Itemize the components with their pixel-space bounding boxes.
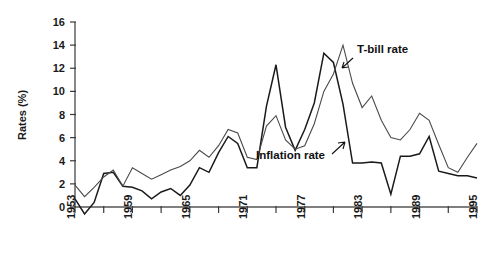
series-line-inflation-rate: [75, 53, 477, 214]
y-tick-label: 14: [53, 39, 66, 51]
y-axis: 0246810121416 Rates (%): [16, 16, 76, 213]
y-tick-label: 10: [53, 85, 65, 97]
x-tick-label: 1977: [295, 195, 307, 219]
x-tick-label: 1971: [237, 195, 249, 219]
annotation-t-bill: T-bill rate: [342, 43, 408, 68]
y-tick-label: 4: [59, 155, 66, 167]
x-axis: 19531959196519711977198319891995: [65, 195, 479, 219]
y-tick-label: 8: [59, 109, 65, 121]
annotation-inflation: Inflation rate: [256, 142, 345, 161]
annotation-label-t-bill-rate: T-bill rate: [357, 43, 408, 55]
y-tick-label: 12: [53, 62, 65, 74]
y-axis-title: Rates (%): [16, 90, 28, 140]
series-lines: [75, 45, 477, 214]
annotation-label-inflation-rate: Inflation rate: [256, 149, 325, 161]
annotation-arrow-inflation-rate: [332, 142, 345, 154]
x-tick-label: 1995: [467, 195, 479, 219]
y-tick-label: 6: [59, 132, 65, 144]
x-tick-label: 1959: [122, 195, 134, 219]
annotation-arrow-t-bill-rate: [342, 58, 353, 68]
x-tick-label: 1983: [352, 195, 364, 219]
y-tick-label: 16: [53, 16, 65, 28]
chart-canvas: 0246810121416 Rates (%) 1953195919651971…: [0, 0, 499, 263]
y-axis-tick-labels: 0246810121416: [53, 16, 66, 213]
x-tick-label: 1965: [180, 195, 192, 219]
y-tick-label: 2: [59, 178, 65, 190]
x-tick-label: 1953: [65, 195, 77, 219]
x-tick-label: 1989: [410, 195, 422, 219]
rates-chart: 0246810121416 Rates (%) 1953195919651971…: [0, 0, 499, 263]
